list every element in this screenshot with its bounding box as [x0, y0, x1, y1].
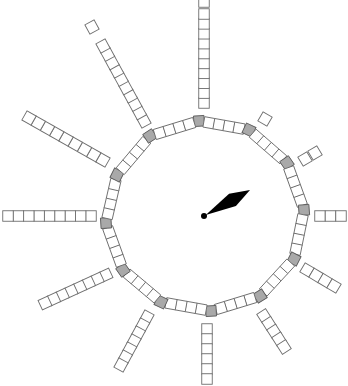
spoke-square: [199, 98, 210, 109]
spoke-square: [199, 38, 210, 49]
spoke-square: [44, 211, 55, 222]
spoke-square: [199, 9, 210, 20]
spoke-right: [315, 211, 347, 222]
spoke-end-square: [85, 20, 99, 34]
spoke-square: [13, 211, 24, 222]
spoke-square: [199, 48, 210, 59]
spoke-square: [202, 324, 213, 335]
spoke-bottom: [202, 324, 213, 385]
spoke-right-upper: [298, 146, 322, 166]
spoke-square: [202, 334, 213, 345]
spoke-square: [336, 211, 347, 222]
spoke-square: [199, 78, 210, 89]
spoke-square: [199, 88, 210, 99]
spoke-square: [3, 211, 14, 222]
spoke-lower-right: [257, 309, 292, 355]
spoke-square: [199, 58, 210, 69]
spoke-square: [315, 211, 326, 222]
spoke-square: [325, 211, 336, 222]
spoke-square: [24, 211, 35, 222]
spoke-upper-left: [85, 20, 151, 128]
spoke-square: [202, 374, 213, 385]
spinner-pivot-icon: [201, 213, 207, 219]
spoke-square: [202, 344, 213, 355]
spoke-end-square: [199, 0, 210, 7]
spoke-square: [75, 211, 86, 222]
spoke-upper-right: [258, 112, 272, 126]
game-board: [0, 0, 348, 386]
spoke-top: [199, 0, 210, 108]
spoke-right-lower: [300, 263, 341, 293]
spoke-square: [65, 211, 76, 222]
spinner[interactable]: [201, 190, 250, 219]
spoke-square: [199, 68, 210, 79]
spoke-square: [202, 364, 213, 375]
spoke-square: [202, 354, 213, 365]
spoke-square: [199, 19, 210, 30]
spoke-lower-left: [38, 268, 113, 310]
spoke-lower: [114, 310, 154, 372]
spoke-square: [199, 29, 210, 40]
spoke-square: [86, 211, 97, 222]
spoke-left: [3, 211, 97, 222]
spinner-pointer-icon[interactable]: [206, 190, 250, 215]
spoke-square: [34, 211, 45, 222]
spoke-square: [258, 112, 272, 126]
spoke-left-upper: [22, 111, 110, 167]
spoke-square: [55, 211, 66, 222]
